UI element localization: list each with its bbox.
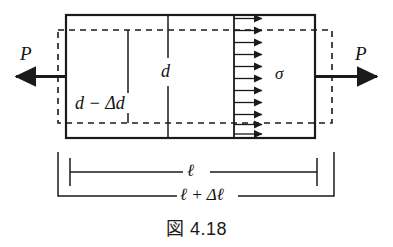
figure-container: P P d d − Δd σ ℓ ℓ + Δℓ 図 4.18: [0, 0, 393, 247]
force-label-right: P: [355, 44, 367, 63]
diameter-original-label: d: [161, 62, 170, 80]
stress-label: σ: [275, 65, 283, 82]
diameter-contracted-label: d − Δd: [75, 94, 125, 112]
length-original-label: ℓ: [184, 162, 197, 179]
force-label-left: P: [20, 44, 32, 63]
figure-drawing: [0, 0, 393, 247]
figure-caption: 図 4.18: [0, 214, 393, 240]
length-extended-label: ℓ + Δℓ: [177, 186, 227, 203]
